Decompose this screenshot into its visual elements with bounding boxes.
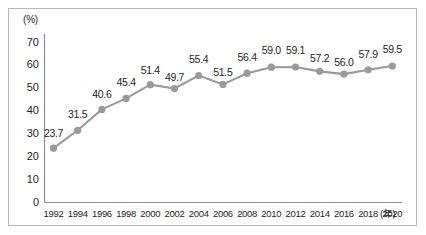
data-point-label: 56.0 — [331, 57, 357, 68]
x-axis-tick: 2016 — [331, 209, 357, 219]
x-axis-tick: 1992 — [41, 209, 67, 219]
data-point-label: 55.4 — [186, 54, 212, 65]
data-point-label: 51.5 — [210, 67, 236, 78]
data-point-marker — [244, 70, 251, 77]
x-axis-tick: 2014 — [307, 209, 333, 219]
data-point-label: 23.7 — [41, 128, 67, 139]
data-point-marker — [98, 106, 105, 113]
data-point-marker — [219, 81, 226, 88]
x-axis-tick: 1996 — [89, 209, 115, 219]
data-point-label: 45.4 — [113, 77, 139, 88]
x-axis-unit-label: (年) — [380, 209, 395, 219]
x-axis-tick: 2010 — [258, 209, 284, 219]
data-point-label: 51.4 — [137, 65, 163, 76]
x-axis-tick: 2018 — [355, 209, 381, 219]
data-point-label: 57.9 — [355, 49, 381, 60]
data-point-marker — [292, 63, 299, 70]
y-axis-tick: 60 — [13, 59, 39, 70]
data-point-label: 59.1 — [283, 45, 309, 56]
y-axis-tick: 50 — [13, 82, 39, 93]
x-axis-tick: 2000 — [137, 209, 163, 219]
data-point-label: 49.7 — [162, 72, 188, 83]
data-point-label: 59.5 — [379, 44, 405, 55]
data-point-label: 40.6 — [89, 89, 115, 100]
data-point-marker — [340, 71, 347, 78]
data-point-marker — [195, 72, 202, 79]
y-axis-tick: 20 — [13, 151, 39, 162]
x-axis-tick: 2006 — [210, 209, 236, 219]
chart-figure: (%) 706050403020100 19921994199619982000… — [8, 8, 417, 226]
data-point-marker — [123, 95, 130, 102]
y-axis-tick: 70 — [13, 37, 39, 48]
chart-plot-area: (%) 706050403020100 19921994199619982000… — [9, 9, 418, 227]
data-point-marker — [74, 127, 81, 134]
data-point-marker — [50, 145, 57, 152]
data-point-label: 31.5 — [65, 109, 91, 120]
y-axis-tick: 0 — [13, 197, 39, 208]
y-axis-tick: 10 — [13, 174, 39, 185]
x-axis-tick: 2008 — [234, 209, 260, 219]
data-point-marker — [147, 81, 154, 88]
x-axis-tick: 2012 — [283, 209, 309, 219]
data-point-label: 56.4 — [234, 52, 260, 63]
x-axis-tick: 2002 — [162, 209, 188, 219]
data-point-marker — [365, 66, 372, 73]
x-axis-tick: 2004 — [186, 209, 212, 219]
x-axis-tick: 1994 — [65, 209, 91, 219]
y-axis-tick: 30 — [13, 128, 39, 139]
data-point-marker — [171, 85, 178, 92]
data-point-label: 57.2 — [307, 53, 333, 64]
data-point-label: 59.0 — [258, 45, 284, 56]
data-point-marker — [316, 68, 323, 75]
x-axis-tick: 1998 — [113, 209, 139, 219]
data-point-marker — [268, 64, 275, 71]
data-point-marker — [389, 62, 396, 69]
y-axis-tick: 40 — [13, 105, 39, 116]
